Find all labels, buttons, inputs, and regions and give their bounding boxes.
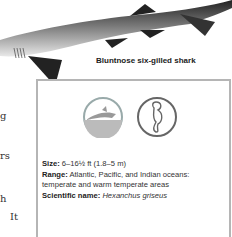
body-text-fragment: g [0,110,6,121]
body-text-fragment: h [0,193,6,204]
scientific-name-label: Scientific name: [42,191,100,200]
body-text-fragment: rs [0,150,10,161]
size-value: 6–16½ ft (1.8–5 m) [60,159,126,168]
image-caption: Bluntnose six-gilled shark [96,56,196,65]
scientific-name-row: Scientific name: Hexanchus griseus [42,191,222,202]
fact-box [36,79,231,237]
body-text-fragment: It [10,211,18,222]
fact-text: Size: 6–16½ ft (1.8–5 m) Range: Atlantic… [42,159,222,201]
shark-illustration [0,0,232,90]
ocean-habitat-icon [82,96,124,138]
range-row: Range: Atlantic, Pacific, and Indian oce… [42,170,222,191]
scientific-name-value: Hexanchus griseus [102,191,167,200]
size-label: Size: [42,159,60,168]
seahorse-icon [136,96,178,138]
size-row: Size: 6–16½ ft (1.8–5 m) [42,159,222,170]
range-label: Range: [42,170,68,179]
